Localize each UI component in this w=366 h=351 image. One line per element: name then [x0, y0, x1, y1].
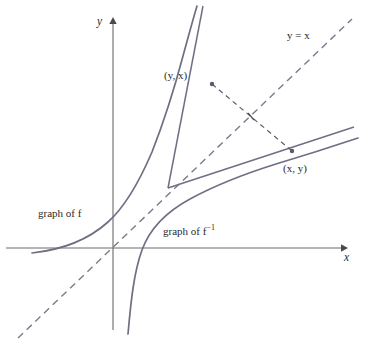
- identity-line-label: y = x: [287, 30, 310, 41]
- diagram-canvas: [0, 0, 366, 351]
- x-axis-label: x: [344, 252, 349, 264]
- identity-line-y-equals-x: [18, 19, 352, 338]
- graph-of-f-inverse-exponent: −1: [206, 223, 215, 232]
- tangent-line-to-f-inverse: [168, 127, 354, 188]
- point-label-x-y: (x, y): [283, 163, 307, 174]
- graph-of-f-label: graph of f: [38, 208, 81, 219]
- inverse-function-diagram: y x (y, x) (x, y) y = x graph of f graph…: [0, 0, 366, 351]
- y-axis: [109, 17, 116, 330]
- point-marker-x-y: [290, 149, 294, 153]
- point-marker-y-x: [210, 82, 214, 86]
- graph-of-f-inverse-text: graph of f: [163, 225, 206, 237]
- y-axis-label-text: y: [97, 15, 102, 27]
- x-axis-label-text: x: [344, 251, 349, 263]
- tangent-line-to-f: [168, 6, 203, 188]
- y-axis-label: y: [97, 16, 102, 28]
- point-label-y-x: (y, x): [164, 70, 187, 81]
- graph-of-f-inverse-label: graph of f−1: [163, 224, 215, 237]
